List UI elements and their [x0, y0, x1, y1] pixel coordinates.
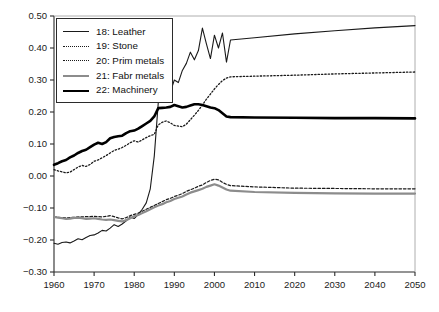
legend-item-label: 20: Prim metals — [96, 55, 164, 66]
series-line-prim_metals — [54, 179, 415, 219]
x-axis-tick-label: 2020 — [284, 279, 305, 290]
x-axis-tick-label: 1980 — [124, 279, 145, 290]
y-axis-tick-label: 0.20 — [29, 106, 48, 117]
chart-container: 0.500.400.300.200.100.00−0.10−0.20−0.30 … — [0, 0, 439, 312]
legend-swatch-icon — [63, 84, 89, 95]
legend-swatch-icon — [63, 55, 89, 66]
x-axis-tick-label: 2040 — [364, 279, 385, 290]
y-axis-tick-label: 0.10 — [29, 138, 48, 149]
y-axis-tick-label: 0.00 — [29, 170, 48, 181]
legend-item-1: 19: Stone — [63, 39, 164, 54]
legend-item-0: 18: Leather — [63, 24, 164, 39]
y-axis-tick-label: −0.30 — [23, 266, 47, 277]
x-axis-tick-label: 1990 — [164, 279, 185, 290]
y-axis-tick-label: −0.10 — [23, 202, 47, 213]
x-axis-tick-label: 2030 — [324, 279, 345, 290]
legend-item-label: 19: Stone — [96, 40, 138, 51]
series-line-machinery — [54, 104, 415, 164]
x-axis-tick-label: 1960 — [43, 279, 64, 290]
chart-legend: 18: Leather19: Stone20: Prim metals21: F… — [56, 18, 173, 103]
x-axis-tick-label: 2010 — [244, 279, 265, 290]
y-axis-tick-label: 0.30 — [29, 74, 48, 85]
legend-item-3: 21: Fabr metals — [63, 68, 164, 83]
x-axis-tick-label: 1970 — [84, 279, 105, 290]
y-axis-tick-labels: 0.500.400.300.200.100.00−0.10−0.20−0.30 — [23, 10, 54, 277]
legend-swatch-icon — [63, 70, 89, 81]
y-axis-tick-label: 0.50 — [29, 10, 48, 21]
legend-item-label: 18: Leather — [96, 26, 146, 37]
legend-item-label: 21: Fabr metals — [96, 70, 164, 81]
legend-item-4: 22: Machinery — [63, 82, 164, 97]
y-axis-tick-label: −0.20 — [23, 234, 47, 245]
x-axis-tick-labels: 1960197019801990200020102020203020402050 — [43, 272, 425, 290]
y-axis-tick-label: 0.40 — [29, 42, 48, 53]
x-axis-tick-label: 2050 — [404, 279, 425, 290]
x-axis-tick-label: 2000 — [204, 279, 225, 290]
legend-item-2: 20: Prim metals — [63, 53, 164, 68]
legend-swatch-icon — [63, 26, 89, 37]
legend-swatch-icon — [63, 40, 89, 51]
legend-item-label: 22: Machinery — [96, 84, 158, 95]
